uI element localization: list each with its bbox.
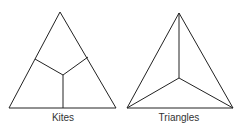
kites-segment-right [63, 57, 88, 75]
triangles-figure [127, 13, 233, 108]
kites-segment-left [35, 59, 63, 75]
triangles-outer-triangle [127, 13, 233, 108]
triangles-label: Triangles [139, 112, 219, 124]
kites-label: Kites [23, 112, 103, 124]
kites-figure [9, 12, 116, 108]
diagram-canvas [0, 0, 242, 129]
